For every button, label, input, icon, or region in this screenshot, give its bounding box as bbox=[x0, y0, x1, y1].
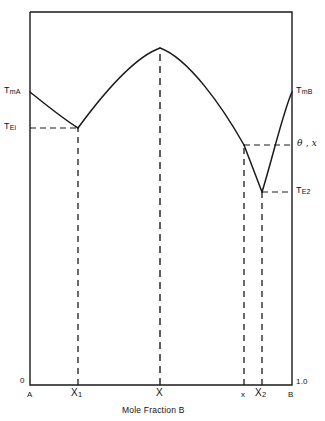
frame-rect bbox=[30, 12, 292, 385]
liquidus-branch-ac-left bbox=[78, 48, 160, 128]
axis-title-x: Mole Fraction B bbox=[122, 406, 185, 415]
label-t-ei-sub: Ei bbox=[10, 124, 16, 131]
phase-diagram-figure: TmA TEi TmB θ , x TE2 0 1.0 A X1 X x X2 … bbox=[0, 0, 325, 421]
label-tick-x: X bbox=[156, 388, 163, 398]
label-t-ei: TEi bbox=[4, 122, 16, 131]
liquidus-branch-theta-to-e2 bbox=[244, 145, 262, 192]
label-t-ma: TmA bbox=[4, 86, 20, 95]
liquidus-branch-ac-right bbox=[160, 48, 244, 145]
label-t-mb-sub: mB bbox=[302, 88, 313, 95]
label-tick-x2: X2 bbox=[255, 388, 266, 399]
label-component-a: A bbox=[27, 391, 33, 399]
label-axis-one: 1.0 bbox=[296, 378, 308, 386]
label-tick-x2-sub: 2 bbox=[262, 390, 266, 399]
label-t-ma-sub: mA bbox=[10, 88, 21, 95]
liquidus-branch-b bbox=[262, 92, 292, 192]
axes-frame bbox=[30, 12, 292, 385]
label-tick-x1-main: X bbox=[71, 387, 78, 398]
label-tick-x-main: X bbox=[156, 387, 163, 398]
label-axis-zero: 0 bbox=[20, 377, 25, 385]
label-tick-x2-main: X bbox=[255, 387, 262, 398]
label-tick-x1: X1 bbox=[71, 388, 82, 399]
label-t-e2: TE2 bbox=[296, 186, 310, 195]
label-tick-x-lower-main: x bbox=[241, 390, 245, 399]
plot-canvas bbox=[0, 0, 325, 421]
label-component-b: B bbox=[288, 391, 294, 399]
liquidus-branch-a bbox=[30, 92, 78, 128]
label-tick-x-lower: x bbox=[241, 391, 245, 399]
label-theta-x: θ , x bbox=[297, 139, 317, 148]
label-t-e2-sub: E2 bbox=[302, 188, 311, 195]
label-tick-x1-sub: 1 bbox=[78, 390, 82, 399]
label-t-mb: TmB bbox=[296, 86, 312, 95]
